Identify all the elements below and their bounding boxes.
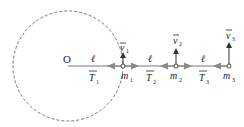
svg-text:m: m: [121, 70, 128, 81]
svg-text:3: 3: [232, 36, 235, 42]
svg-text:T: T: [146, 72, 153, 83]
svg-text:v: v: [120, 42, 125, 53]
length-label-3: ℓ: [201, 53, 205, 64]
center-label: O: [63, 53, 71, 65]
rotating-masses-diagram: O ℓ ℓ ℓ T 1 T 2 T 3 m 1 m 2 m 3 v 1 v 2: [0, 0, 244, 127]
tension-label-2: T 2: [146, 71, 156, 85]
velocity-label-1: v 1: [120, 42, 129, 54]
tension-label-3: T 3: [199, 71, 209, 85]
mass-label-3: m 3: [223, 70, 235, 83]
svg-text:T: T: [89, 72, 96, 83]
tension-label-1: T 1: [89, 71, 99, 85]
svg-text:2: 2: [153, 79, 156, 85]
svg-text:v: v: [226, 30, 231, 41]
svg-text:2: 2: [179, 77, 182, 83]
velocity-arrows: [123, 45, 229, 66]
svg-text:T: T: [199, 72, 206, 83]
mass-3-point: [227, 64, 231, 68]
mass-2-point: [174, 64, 178, 68]
length-label-2: ℓ: [148, 53, 152, 64]
svg-text:m: m: [170, 70, 177, 81]
svg-text:3: 3: [232, 77, 235, 83]
svg-text:2: 2: [179, 41, 182, 47]
mass-label-1: m 1: [121, 70, 133, 83]
velocity-label-3: v 3: [226, 30, 235, 42]
mass-label-2: m 2: [170, 70, 182, 83]
svg-text:m: m: [223, 70, 230, 81]
svg-text:3: 3: [206, 79, 209, 85]
length-label-1: ℓ: [91, 53, 95, 64]
svg-text:1: 1: [130, 77, 133, 83]
svg-text:1: 1: [96, 79, 99, 85]
svg-text:1: 1: [126, 48, 129, 54]
velocity-label-2: v 2: [173, 35, 182, 47]
mass-1-point: [121, 64, 125, 68]
svg-text:v: v: [173, 35, 178, 46]
